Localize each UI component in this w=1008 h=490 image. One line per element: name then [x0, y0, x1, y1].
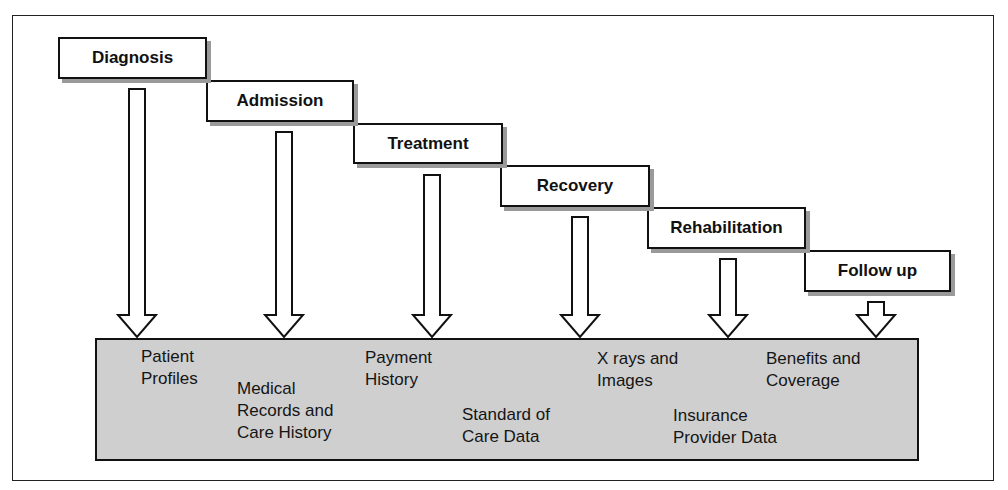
down-arrow-icon: [118, 89, 156, 337]
down-arrow-icon: [709, 259, 747, 337]
stage-treatment: Treatment: [353, 123, 503, 164]
data-item-patient-profiles: Patient Profiles: [141, 346, 198, 390]
down-arrow-icon: [265, 132, 303, 337]
stage-label: Admission: [237, 91, 324, 111]
down-arrow-icon: [413, 175, 451, 337]
stage-follow-up: Follow up: [804, 250, 951, 292]
stage-label: Rehabilitation: [670, 218, 782, 238]
data-item-insurance-provider: Insurance Provider Data: [673, 405, 777, 449]
data-item-payment-history: Payment History: [365, 347, 432, 391]
data-item-standard-of-care: Standard of Care Data: [462, 404, 550, 448]
data-item-xrays-images: X rays and Images: [597, 348, 678, 392]
stage-rehabilitation: Rehabilitation: [647, 207, 806, 249]
data-item-benefits-coverage: Benefits and Coverage: [766, 348, 861, 392]
data-item-medical-records: Medical Records and Care History: [237, 378, 333, 444]
down-arrow-icon: [561, 217, 599, 337]
stage-recovery: Recovery: [500, 165, 650, 207]
stage-label: Follow up: [838, 261, 917, 281]
stage-admission: Admission: [206, 80, 354, 122]
stage-label: Recovery: [537, 176, 614, 196]
down-arrow-icon: [857, 302, 895, 337]
stage-label: Diagnosis: [92, 48, 173, 68]
stage-label: Treatment: [387, 134, 468, 154]
stage-diagnosis: Diagnosis: [58, 37, 207, 79]
